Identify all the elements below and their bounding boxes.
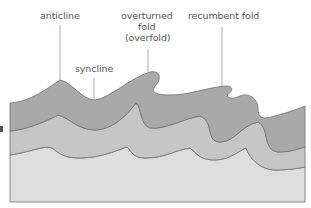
syncline-label: syncline <box>75 63 113 74</box>
edge-mark <box>0 126 3 132</box>
recumbent-fold-label: recumbent fold <box>188 10 259 21</box>
fold-diagram: anticline syncline overturned fold (over… <box>0 0 311 208</box>
overturned-fold-label-line3: (overfold) <box>125 32 170 43</box>
anticline-label: anticline <box>40 10 80 21</box>
overturned-fold-label-line2: fold <box>138 21 155 32</box>
overturned-fold-label-line1: overturned <box>121 10 173 21</box>
